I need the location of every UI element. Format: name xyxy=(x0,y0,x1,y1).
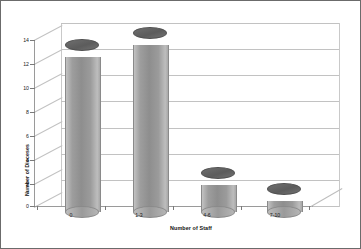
gridline-8 xyxy=(61,101,339,102)
bar-2[interactable] xyxy=(201,167,235,212)
x-tick-label-1: 1-3 xyxy=(119,212,159,218)
y-tick-8 xyxy=(30,112,35,113)
bar-0-top-cap xyxy=(65,39,99,51)
x-tick-1 xyxy=(105,206,106,210)
y-tick-4 xyxy=(30,160,35,161)
y-tick-0 xyxy=(30,206,35,207)
y-tick-14 xyxy=(30,40,35,41)
bar-0-body xyxy=(65,57,101,212)
x-tick-label-2: 4-6 xyxy=(187,212,227,218)
bar-2-top-cap xyxy=(201,167,235,179)
bar-3-top-cap xyxy=(267,183,301,195)
y-axis-title: Number of Dioceses xyxy=(24,132,30,208)
y-tick-12 xyxy=(30,64,35,65)
y-tick-2 xyxy=(30,184,35,185)
y-tick-label-14: 14 xyxy=(7,37,29,43)
x-tick-label-0: 0 xyxy=(51,212,91,218)
bar-1-body xyxy=(133,45,169,212)
y-axis-title-wrap: Number of Dioceses xyxy=(13,61,27,181)
bar-1[interactable] xyxy=(133,27,167,212)
x-axis-title: Number of Staff xyxy=(121,225,261,231)
gridline-4 xyxy=(61,154,339,155)
gridline-2 xyxy=(61,180,339,181)
gridline-6 xyxy=(61,128,339,129)
depth-rib-10 xyxy=(34,73,63,89)
chart-frame: 14 12 10 8 6 4 2 0 Number of Dioceses xyxy=(0,0,361,249)
y-tick-6 xyxy=(30,136,35,137)
depth-rib-4 xyxy=(34,145,63,161)
y-tick-10 xyxy=(30,88,35,89)
x-tick-4 xyxy=(309,206,310,210)
x-tick-3 xyxy=(241,206,242,210)
depth-rib-14 xyxy=(34,25,63,41)
bar-3[interactable] xyxy=(267,183,301,212)
x-tick-label-3: 7-10 xyxy=(255,212,295,218)
gridline-10 xyxy=(61,75,339,76)
bar-0[interactable] xyxy=(65,39,99,212)
gridline-12 xyxy=(61,49,339,50)
gridline-14 xyxy=(61,23,339,24)
depth-rib-8 xyxy=(34,97,63,113)
floor-right-edge xyxy=(311,187,342,207)
bar-1-top-cap xyxy=(133,27,167,39)
depth-rib-12 xyxy=(34,49,63,65)
x-tick-2 xyxy=(173,206,174,210)
x-tick-0 xyxy=(37,206,38,210)
depth-rib-6 xyxy=(34,121,63,137)
depth-rib-2 xyxy=(34,169,63,185)
